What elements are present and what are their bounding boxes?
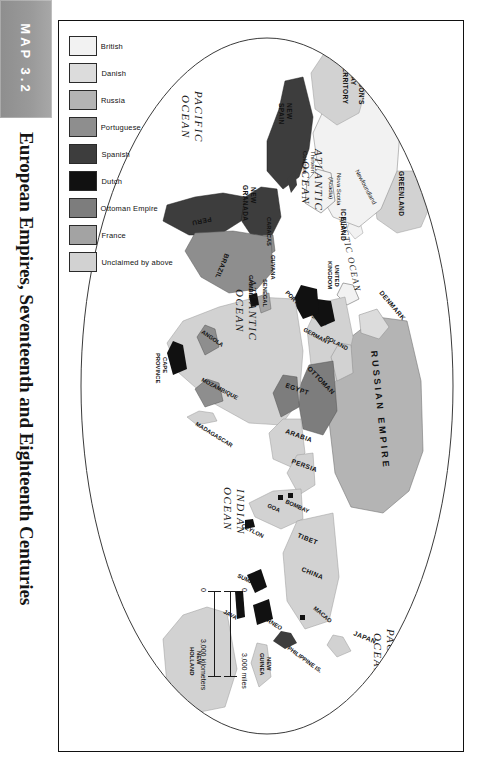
- legend-label-france: France: [101, 231, 126, 240]
- legend-item-spanish[interactable]: Spanish: [69, 143, 130, 165]
- legend-item-british[interactable]: British: [69, 35, 123, 57]
- legend-swatch-russia: [69, 90, 97, 110]
- scale-tick-right-km: [208, 676, 221, 677]
- region-label-iceland: ICELAND: [340, 209, 347, 241]
- map-title: European Empires, Seventeenth and Eighte…: [0, 118, 52, 772]
- region-label-united-kingdom: UNITEDKINGDOM: [327, 261, 340, 289]
- map-scale-bar: 0 3,000 miles 0 3,000 kilometers: [179, 591, 249, 711]
- legend-label-british: British: [101, 42, 123, 51]
- figure-page: ARCTIC OCEAN ATLANTICOCEAN ATLANTICOCEAN…: [0, 0, 478, 772]
- legend-label-dutch: Dutch: [101, 177, 122, 186]
- landmass-new-zealand: [169, 725, 189, 737]
- legend-item-russia[interactable]: Russia: [69, 89, 125, 111]
- region-label-guyana: GUYANA: [270, 255, 276, 280]
- legend-swatch-portuguese: [69, 117, 97, 137]
- scale-zero-miles: 0: [241, 588, 248, 592]
- legend-swatch-danish: [69, 63, 97, 83]
- scale-line-miles: [230, 591, 231, 677]
- legend-item-danish[interactable]: Danish: [69, 62, 126, 84]
- region-label-gambia: GAMBIA: [248, 275, 254, 299]
- legend-label-portuguese: Portuguese: [101, 123, 141, 132]
- landmass-bombay: [288, 493, 293, 498]
- ocean-label-pacific-south: PACIFICOCEAN: [180, 90, 205, 143]
- legend-item-ottoman-empire[interactable]: Ottoman Empire: [69, 197, 158, 219]
- map-number-badge: MAP 3.2: [0, 0, 52, 118]
- ocean-label-pacific-north: PACIFICOCEAN: [372, 628, 397, 681]
- landmass-macao: [300, 615, 305, 620]
- legend-swatch-unclaimed: [69, 252, 97, 272]
- legend-swatch-ottoman-empire: [69, 198, 97, 218]
- legend-swatch-british: [69, 36, 97, 56]
- map-plate: ARCTIC OCEAN ATLANTICOCEAN ATLANTICOCEAN…: [0, 0, 478, 772]
- region-label-caracas: CARACAS: [266, 217, 272, 246]
- legend-swatch-spanish: [69, 144, 97, 164]
- legend-item-portuguese[interactable]: Portuguese: [69, 116, 141, 138]
- landmass-goa: [278, 495, 283, 500]
- legend-label-danish: Danish: [101, 69, 126, 78]
- legend-item-dutch[interactable]: Dutch: [69, 170, 122, 192]
- map-frame: ARCTIC OCEAN ATLANTICOCEAN ATLANTICOCEAN…: [58, 20, 464, 752]
- scale-label-kilometers: 3,000 kilometers: [200, 639, 207, 690]
- legend-label-ottoman-empire: Ottoman Empire: [101, 204, 158, 213]
- region-label-senegal: SENEGAL: [262, 279, 268, 307]
- legend-label-spanish: Spanish: [101, 150, 130, 159]
- legend-swatch-dutch: [69, 171, 97, 191]
- scale-line-km: [214, 591, 215, 677]
- figure-caption-bar: MAP 3.2 European Empires, Seventeenth an…: [0, 0, 52, 772]
- scale-zero-km: 0: [200, 588, 207, 592]
- legend-swatch-france: [69, 225, 97, 245]
- legend-label-russia: Russia: [101, 96, 125, 105]
- legend-item-france[interactable]: France: [69, 224, 126, 246]
- region-label-greenland: GREENLAND: [398, 171, 405, 216]
- scale-label-miles: 3,000 miles: [241, 653, 248, 689]
- legend-item-unclaimed[interactable]: Unclaimed by above: [69, 251, 173, 273]
- legend-label-unclaimed: Unclaimed by above: [101, 258, 173, 267]
- map-legend: British Danish Russia Portuguese Spanish: [69, 35, 173, 273]
- scale-tick-right-miles: [224, 676, 237, 677]
- region-label-new-zealand: NEW ZEALAND: [180, 709, 204, 750]
